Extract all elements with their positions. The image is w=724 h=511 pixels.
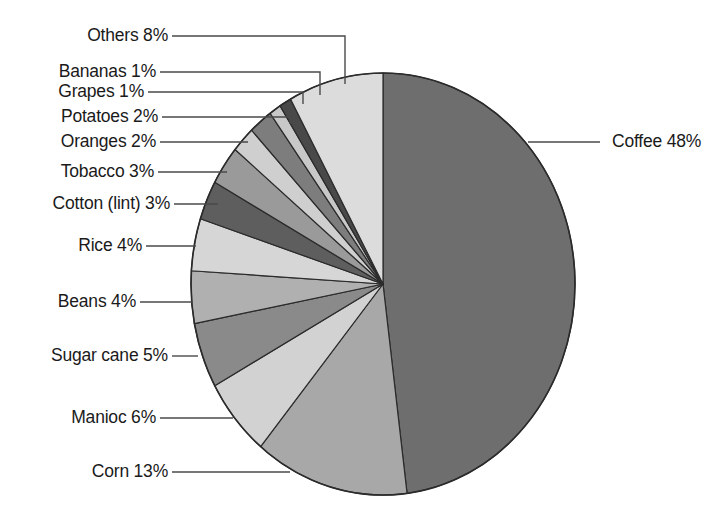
slice-label-beans: Beans 4% [58,293,136,311]
leader-line-others [172,36,345,84]
pie-slice-group [191,73,575,495]
slice-label-tobacco: Tobacco 3% [61,163,154,181]
slice-label-coffee: Coffee 48% [612,133,701,151]
pie-slice-coffee [383,73,575,493]
slice-label-potatoes: Potatoes 2% [61,108,158,126]
slice-label-bananas: Bananas 1% [59,63,156,81]
leader-line-grapes [148,92,303,104]
slice-label-others: Others 8% [87,27,168,45]
slice-label-grapes: Grapes 1% [58,83,144,101]
slice-label-sugar-cane: Sugar cane 5% [51,347,168,365]
pie-chart-figure: Others 8% Bananas 1% Grapes 1% Potatoes … [0,0,724,511]
slice-label-manioc: Manioc 6% [71,409,156,427]
slice-label-cotton: Cotton (lint) 3% [53,195,170,213]
slice-label-corn: Corn 13% [92,463,168,481]
slice-label-oranges: Oranges 2% [61,133,156,151]
slice-label-rice: Rice 4% [78,237,142,255]
